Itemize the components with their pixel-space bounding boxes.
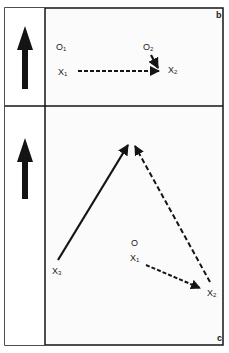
panel-letter-b: b: [216, 10, 222, 20]
diagram: b O1 O2 X1 X2 c O X1 X2 X3: [0, 0, 229, 353]
panel-letter-c: c: [217, 333, 222, 343]
label-o: O: [131, 238, 138, 248]
